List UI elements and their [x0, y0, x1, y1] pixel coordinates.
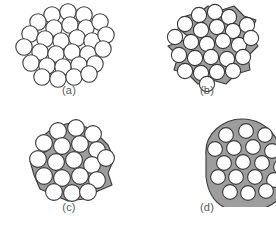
- pore-circle: [167, 29, 182, 44]
- pore-circle: [221, 9, 236, 24]
- pore-circle: [177, 63, 192, 78]
- panel-a: (a): [0, 0, 138, 115]
- pore-circle: [259, 184, 274, 199]
- pore-circle: [36, 135, 53, 152]
- pore-circle: [239, 124, 254, 139]
- pore-circle: [36, 168, 53, 185]
- pore-circle: [193, 22, 208, 37]
- particle-circle: [34, 69, 50, 85]
- pore-circle: [209, 19, 224, 34]
- pore-circle: [50, 123, 67, 140]
- pore-circle: [248, 170, 263, 185]
- pore-circle: [219, 128, 234, 143]
- pore-circle: [215, 33, 230, 48]
- pore-circle: [54, 138, 71, 155]
- panel-a-label: (a): [0, 84, 138, 97]
- pore-circle: [48, 154, 65, 171]
- pore-circle: [187, 50, 202, 65]
- pore-circle: [243, 30, 258, 45]
- pore-circle: [211, 170, 226, 185]
- pore-circle: [203, 49, 218, 64]
- pore-circle: [177, 16, 192, 31]
- panel-b: (b): [138, 0, 276, 115]
- panel-c: (c): [0, 115, 138, 230]
- pore-circle: [241, 186, 256, 201]
- panel-c-label: (c): [0, 201, 138, 214]
- pore-circle: [223, 185, 238, 200]
- pore-circle: [171, 47, 186, 62]
- pore-circle: [72, 136, 89, 153]
- pore-circle: [217, 156, 232, 171]
- pore-circle: [227, 141, 242, 156]
- panel-b-diagram: [138, 0, 276, 92]
- pore-circle: [246, 140, 261, 155]
- particle-circle: [16, 39, 32, 55]
- panel-a-diagram: [0, 0, 138, 92]
- panel-c-diagram: [0, 115, 138, 207]
- panel-d-diagram: [138, 115, 276, 207]
- sintering-stages-figure: (a) (b) (c) (d): [0, 0, 276, 230]
- pore-circle: [191, 7, 206, 22]
- particle-circle: [23, 55, 39, 71]
- panel-b-label: (b): [138, 84, 276, 97]
- pore-circle: [30, 151, 47, 168]
- particle-circle: [95, 41, 111, 57]
- pore-circle: [183, 34, 198, 49]
- pore-circle: [208, 142, 223, 157]
- pore-circle: [229, 170, 244, 185]
- particle-circle: [66, 69, 82, 85]
- pore-circle: [207, 4, 222, 19]
- pore-circle: [72, 168, 89, 185]
- particle-circle: [81, 66, 97, 82]
- pore-circle: [80, 184, 97, 201]
- pore-circle: [68, 120, 85, 137]
- pore-circle: [209, 64, 224, 79]
- pore-circle: [66, 152, 83, 169]
- pore-circle: [64, 185, 81, 202]
- panel-d: (d): [138, 115, 276, 230]
- pore-circle: [225, 63, 240, 78]
- pore-circle: [46, 184, 63, 201]
- panel-d-label: (d): [138, 201, 276, 214]
- pore-circle: [236, 155, 251, 170]
- pore-circle: [255, 156, 270, 171]
- pore-circle: [265, 144, 276, 159]
- pore-circle: [98, 150, 115, 167]
- pore-circle: [258, 128, 273, 143]
- pore-circle: [235, 49, 250, 64]
